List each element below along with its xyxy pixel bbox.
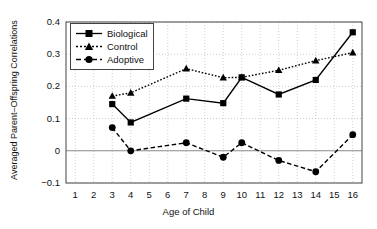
- legend-item-control: Control: [75, 40, 148, 53]
- legend-swatch-adoptive: [75, 54, 103, 65]
- y-tick-label: −0.1: [30, 177, 60, 188]
- y-axis-title: Averaged Parent–Offspring Correlations: [9, 10, 19, 190]
- y-tick-label: 0.2: [30, 80, 60, 91]
- legend-item-adoptive: Adoptive: [75, 53, 148, 66]
- x-tick-label: 3: [103, 189, 121, 200]
- y-tick-label: 0: [30, 145, 60, 156]
- x-tick-label: 4: [122, 189, 140, 200]
- legend-item-biological: Biological: [75, 27, 148, 40]
- x-tick-label: 7: [177, 189, 195, 200]
- x-tick-label: 15: [325, 189, 343, 200]
- x-tick-label: 10: [233, 189, 251, 200]
- x-tick-label: 12: [270, 189, 288, 200]
- legend-swatch-biological: [75, 28, 103, 39]
- legend-label-adoptive: Adoptive: [107, 54, 144, 65]
- x-tick-label: 8: [196, 189, 214, 200]
- x-tick-label: 11: [251, 189, 269, 200]
- x-tick-label: 2: [85, 189, 103, 200]
- x-tick-label: 6: [159, 189, 177, 200]
- legend-label-biological: Biological: [107, 28, 148, 39]
- y-tick-label: 0.1: [30, 113, 60, 124]
- chart-figure: Averaged Parent–Offspring Correlations A…: [0, 0, 377, 229]
- x-tick-label: 14: [307, 189, 325, 200]
- legend-swatch-control: [75, 41, 103, 52]
- x-tick-label: 9: [214, 189, 232, 200]
- legend-label-control: Control: [107, 41, 138, 52]
- chart-legend: Biological Control Adoptive: [70, 23, 154, 70]
- x-tick-label: 16: [344, 189, 362, 200]
- x-tick-label: 13: [288, 189, 306, 200]
- x-axis-title: Age of Child: [0, 206, 377, 217]
- y-tick-label: 0.4: [30, 16, 60, 27]
- x-tick-label: 5: [140, 189, 158, 200]
- x-tick-label: 1: [66, 189, 84, 200]
- y-tick-label: 0.3: [30, 48, 60, 59]
